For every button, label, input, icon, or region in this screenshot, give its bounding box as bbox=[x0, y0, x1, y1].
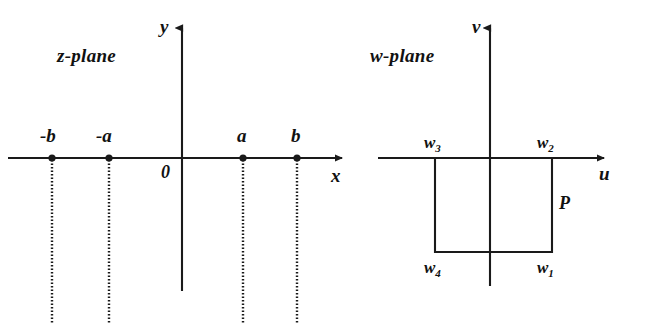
z-plane-title: z-plane bbox=[57, 46, 116, 65]
z-plane-origin-label: 0 bbox=[161, 163, 170, 181]
z-plane-point-b bbox=[293, 154, 300, 161]
w-plane-corner-label-w4: w4 bbox=[424, 259, 441, 279]
z-plane-x-axis-label: x bbox=[331, 166, 341, 185]
z-plane-point-label-a: a bbox=[237, 126, 247, 145]
z-plane-point-neg-b bbox=[48, 154, 55, 161]
w-plane-corner-w3-base: w bbox=[424, 133, 435, 152]
w-plane-group bbox=[378, 28, 604, 286]
w-plane-region-boundary bbox=[435, 158, 552, 252]
w-plane-corner-w4-base: w bbox=[424, 258, 435, 277]
w-plane-corner-label-w2: w2 bbox=[537, 134, 554, 154]
z-plane-point-label-b: b bbox=[291, 126, 301, 145]
w-plane-region-label: P bbox=[559, 194, 570, 212]
w-plane-corner-w1-sub: 1 bbox=[548, 267, 554, 279]
z-plane-group bbox=[8, 28, 342, 323]
w-plane-corner-label-w1: w1 bbox=[537, 259, 554, 279]
w-plane-corner-w2-sub: 2 bbox=[548, 142, 554, 154]
z-plane-point-a bbox=[239, 154, 246, 161]
z-plane-point-label-neg-a: -a bbox=[96, 126, 112, 145]
w-plane-corner-w2-base: w bbox=[537, 133, 548, 152]
z-plane-point-neg-a bbox=[105, 154, 112, 161]
conformal-mapping-figure: z-plane y x 0 -b -a a b w-plane v u w3 w… bbox=[0, 0, 649, 323]
z-plane-point-label-neg-b: -b bbox=[40, 126, 56, 145]
w-plane-corner-w4-sub: 4 bbox=[435, 267, 441, 279]
w-plane-corner-label-w3: w3 bbox=[424, 134, 441, 154]
w-plane-u-axis-label: u bbox=[599, 164, 610, 183]
z-plane-y-axis-label: y bbox=[160, 17, 168, 36]
w-plane-corner-w3-sub: 3 bbox=[435, 142, 441, 154]
w-plane-title: w-plane bbox=[370, 46, 434, 65]
w-plane-v-axis-label: v bbox=[472, 17, 480, 36]
w-plane-corner-w1-base: w bbox=[537, 258, 548, 277]
